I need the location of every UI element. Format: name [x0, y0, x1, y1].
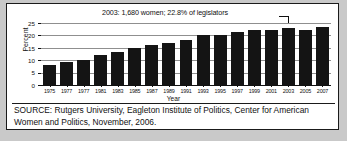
bar [282, 28, 295, 85]
x-axis-tick-mark [84, 85, 85, 87]
bar [43, 65, 56, 85]
x-axis-tick-mark [288, 85, 289, 87]
x-axis-tick-mark [254, 85, 255, 87]
x-axis-tick-label: 1999 [246, 88, 263, 94]
bar [299, 30, 312, 85]
bar [60, 62, 73, 85]
x-axis-tick-label: 1995 [212, 88, 229, 94]
x-axis-tick-mark [322, 85, 323, 87]
chart-figure: 2003: 1,680 women; 22.8% of legislators … [6, 3, 339, 130]
x-axis-tick-mark [237, 85, 238, 87]
x-axis-tick-mark [220, 85, 221, 87]
y-axis-tick-label: 0 [13, 82, 35, 89]
x-axis-tick-label: 1991 [177, 88, 194, 94]
y-axis-tick-label: 25 [13, 20, 35, 27]
bar [316, 27, 329, 85]
y-axis-tick-label: 5 [13, 69, 35, 76]
x-axis-tick-label: 1975 [41, 88, 58, 94]
x-axis-tick-mark [169, 85, 170, 87]
x-axis-tick-mark [186, 85, 187, 87]
x-axis-tick-mark [50, 85, 51, 87]
y-axis-tick-label: 15 [13, 45, 35, 52]
x-axis-tick-mark [271, 85, 272, 87]
gridline [41, 23, 331, 24]
x-axis-tick-mark [101, 85, 102, 87]
bar [214, 35, 227, 85]
x-axis-tick-label: 2003 [280, 88, 297, 94]
x-axis-tick-label: 1993 [195, 88, 212, 94]
bar [77, 60, 90, 85]
x-axis-tick-mark [67, 85, 68, 87]
bar [162, 43, 175, 85]
y-axis-tick-label: 20 [13, 32, 35, 39]
bar [145, 45, 158, 85]
x-axis-tick-label: 1987 [143, 88, 160, 94]
bar [94, 55, 107, 85]
bar [180, 40, 193, 85]
y-axis-tick-label: 10 [13, 57, 35, 64]
x-axis-title: Year [7, 95, 340, 102]
x-axis-tick-label: 1985 [126, 88, 143, 94]
source-divider [12, 103, 335, 104]
bar [231, 32, 244, 85]
x-axis-tick-label: 1981 [92, 88, 109, 94]
source-note: SOURCE: Rutgers University, Eagleton Ins… [14, 105, 334, 128]
x-axis-tick-mark [203, 85, 204, 87]
x-axis-tick-label: 2005 [297, 88, 314, 94]
annotation-leader-horizontal [279, 16, 288, 17]
x-axis-tick-label: 1983 [109, 88, 126, 94]
x-axis-tick-label: 2007 [314, 88, 331, 94]
annotation-callout: 2003: 1,680 women; 22.8% of legislators [7, 8, 340, 22]
x-axis-tick-label: 2001 [263, 88, 280, 94]
x-axis-tick-label: 1997 [229, 88, 246, 94]
x-axis-tick-label: 1977 [75, 88, 92, 94]
x-axis-tick-mark [118, 85, 119, 87]
annotation-label: 2003: 1,680 women; 22.8% of legislators [102, 8, 228, 17]
plot-area [41, 23, 331, 86]
bar [197, 35, 210, 85]
bar [265, 30, 278, 85]
x-axis-tick-label: 1989 [160, 88, 177, 94]
x-axis-tick-label: 1977 [58, 88, 75, 94]
x-axis-tick-mark [152, 85, 153, 87]
x-axis-tick-mark [305, 85, 306, 87]
bar [128, 48, 141, 85]
bar [248, 30, 261, 85]
x-axis-tick-mark [135, 85, 136, 87]
bar [111, 52, 124, 85]
